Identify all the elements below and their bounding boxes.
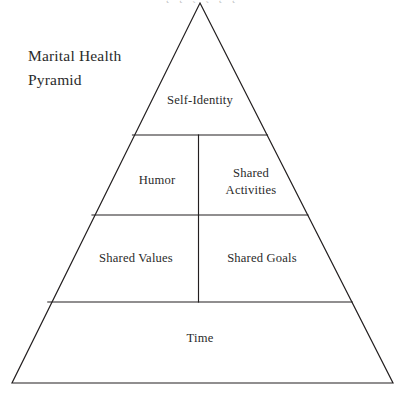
diagram-title: Marital Health Pyramid [28, 44, 188, 92]
tier-cell-label-time: Time [158, 330, 242, 347]
tier-cell-label-shared-activities: Shared Activities [204, 165, 298, 198]
tier-cell-label-humor: Humor [108, 172, 206, 189]
tier-cell-label-shared-goals: Shared Goals [200, 250, 324, 267]
tier-cell-label-self-identity: Self-Identity [140, 92, 260, 109]
pyramid-diagram-canvas: ˛ ˛ ˏ ˏ ˛ ˛ Marital Health Pyramid Self-… [0, 0, 405, 397]
tier-cell-label-shared-values: Shared Values [74, 250, 198, 267]
